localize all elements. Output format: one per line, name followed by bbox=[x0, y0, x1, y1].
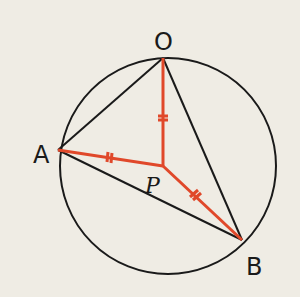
label-O: O bbox=[154, 28, 173, 56]
label-B: B bbox=[246, 253, 262, 281]
segment-OB bbox=[163, 58, 242, 240]
label-P: P bbox=[144, 173, 161, 198]
label-A: A bbox=[33, 141, 50, 169]
geometry-diagram: O A B P bbox=[0, 0, 300, 297]
segment-PB bbox=[163, 166, 242, 240]
segment-OA bbox=[58, 58, 163, 150]
